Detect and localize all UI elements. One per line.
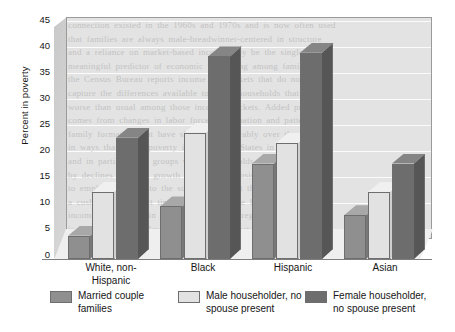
gridline-35: [67, 73, 431, 74]
category-label-hispanic: Hispanic: [245, 262, 341, 275]
gridline-30: [67, 99, 431, 100]
legend-swatch-female-householder: [305, 291, 327, 303]
y-tick-20: 20: [39, 145, 50, 155]
bar-asian-series-1[interactable]: [368, 182, 390, 259]
bar-side-face: [414, 154, 425, 259]
category-label-line1: Asian: [337, 262, 433, 275]
gridline-25: [67, 125, 431, 126]
bar-front-face: [208, 56, 230, 259]
bar-white-non-hispanic-series-0[interactable]: [68, 226, 90, 259]
bar-front-face: [276, 143, 298, 259]
bar-hispanic-series-0[interactable]: [252, 154, 274, 259]
y-tick-10: 10: [39, 197, 50, 207]
legend-label-male-householder: Male householder, no spouse present: [206, 290, 302, 315]
category-label-line2: Hispanic: [63, 275, 159, 288]
y-tick-40: 40: [39, 41, 50, 51]
bar-side-face: [138, 128, 149, 259]
bar-front-face: [68, 236, 90, 259]
category-label-asian: Asian: [337, 262, 433, 275]
gridline-45: [67, 21, 431, 22]
bar-front-face: [252, 164, 274, 259]
category-label-line1: White, non-: [63, 262, 159, 275]
bar-black-series-1[interactable]: [184, 123, 206, 259]
category-label-white: White, non- Hispanic: [63, 262, 159, 287]
bar-side-face: [322, 43, 333, 259]
y-tick-45: 45: [39, 15, 50, 25]
bar-black-series-0[interactable]: [160, 196, 182, 259]
bar-front-face: [160, 206, 182, 259]
bar-asian-series-0[interactable]: [344, 205, 366, 259]
bar-front-face: [368, 192, 390, 259]
legend-item-married-couple[interactable]: Married couple families: [50, 290, 144, 315]
bar-asian-series-2[interactable]: [392, 154, 414, 259]
bar-front-face: [392, 164, 414, 259]
category-label-black: Black: [155, 262, 251, 275]
bar-white-non-hispanic-series-1[interactable]: [92, 182, 114, 259]
legend-swatch-male-householder: [178, 291, 200, 303]
bar-side-face: [230, 46, 241, 259]
bar-front-face: [92, 192, 114, 259]
legend-label-married-couple: Married couple families: [78, 290, 144, 315]
bar-black-series-2[interactable]: [208, 46, 230, 259]
y-tick-15: 15: [39, 171, 50, 181]
y-tick-35: 35: [39, 67, 50, 77]
category-label-line1: Hispanic: [245, 262, 341, 275]
gridline-40: [67, 47, 431, 48]
bar-front-face: [300, 53, 322, 259]
bar-front-face: [184, 133, 206, 259]
bar-front-face: [344, 215, 366, 259]
legend-swatch-married-couple: [50, 291, 72, 303]
bar-hispanic-series-1[interactable]: [276, 133, 298, 259]
y-tick-30: 30: [39, 93, 50, 103]
y-tick-25: 25: [39, 119, 50, 129]
legend-item-female-householder[interactable]: Female householder, no spouse present: [305, 290, 426, 315]
bar-front-face: [116, 138, 138, 259]
chart-root: Percent in poverty 45 40 35 30 25 20 15 …: [0, 0, 455, 332]
bar-white-non-hispanic-series-2[interactable]: [116, 128, 138, 259]
legend-label-female-householder: Female householder, no spouse present: [333, 290, 426, 315]
category-label-line1: Black: [155, 262, 251, 275]
legend-item-male-householder[interactable]: Male householder, no spouse present: [178, 290, 302, 315]
chart-legend: Married couple families Male householder…: [0, 290, 455, 330]
floor-front-edge: [42, 259, 432, 260]
y-axis-tick-labels: 45 40 35 30 25 20 15 10 5 0: [28, 0, 50, 332]
y-tick-5: 5: [45, 223, 50, 233]
bar-hispanic-series-2[interactable]: [300, 43, 322, 259]
